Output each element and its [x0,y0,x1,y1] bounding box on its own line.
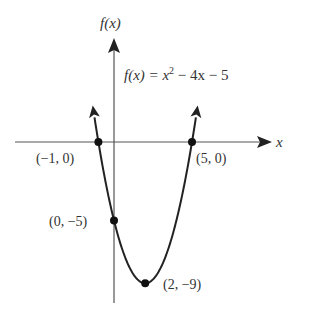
point-x-intercept-left [94,138,102,146]
point-vertex [141,279,149,287]
label-point-5-0: (5, 0) [196,152,226,166]
label-point-0-neg5: (0, −5) [49,215,87,229]
label-point-neg1-0: (−1, 0) [36,152,74,166]
point-x-intercept-right [188,138,196,146]
label-point-2-neg9: (2, −9) [163,278,201,292]
curve-left-arrow-icon [89,106,100,119]
equation-label: f(x) = x2 − 4x − 5 [124,66,229,83]
point-y-intercept [110,217,118,225]
curve-right-arrow-icon [191,106,202,119]
x-axis-label: x [276,135,283,150]
y-axis-label: f(x) [100,16,121,31]
